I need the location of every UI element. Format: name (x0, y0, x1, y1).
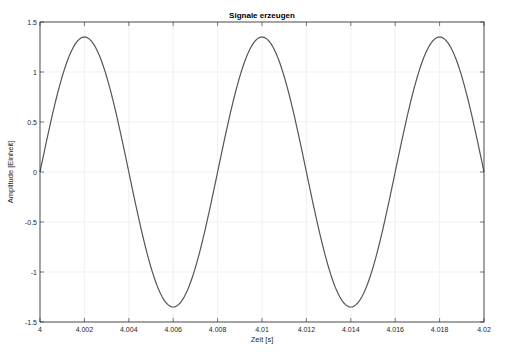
y-tick-label: 0 (33, 169, 37, 176)
y-tick-label: -1 (31, 269, 37, 276)
y-tick-label: 0.5 (27, 119, 37, 126)
grid-lines (40, 22, 484, 322)
x-tick-labels: 44.0024.0044.0064.0084.014.0124.0144.016… (38, 326, 491, 333)
x-tick-label: 4.02 (477, 326, 491, 333)
x-axis-label: Zeit [s] (251, 335, 274, 344)
x-tick-label: 4.002 (76, 326, 94, 333)
x-tick-label: 4 (38, 326, 42, 333)
y-tick-label: -1.5 (25, 319, 37, 326)
x-tick-label: 4.014 (342, 326, 360, 333)
x-tick-label: 4.016 (386, 326, 404, 333)
line-chart: 44.0024.0044.0064.0084.014.0124.0144.016… (0, 0, 505, 357)
y-tick-label: 1 (33, 69, 37, 76)
x-tick-label: 4.012 (298, 326, 316, 333)
y-tick-label: -0.5 (25, 219, 37, 226)
x-tick-label: 4.008 (209, 326, 227, 333)
y-axis-label: Amplitude [Einheit] (6, 141, 15, 204)
y-tick-label: 1.5 (27, 19, 37, 26)
y-tick-labels: -1.5-1-0.500.511.5 (25, 19, 37, 326)
x-tick-label: 4.006 (164, 326, 182, 333)
chart-title: Signale erzeugen (229, 11, 295, 20)
x-tick-label: 4.01 (255, 326, 269, 333)
x-tick-label: 4.004 (120, 326, 138, 333)
x-tick-label: 4.018 (431, 326, 449, 333)
